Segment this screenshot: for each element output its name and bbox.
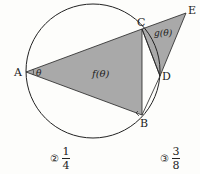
denominator: 4 — [63, 160, 70, 171]
point-label-d: D — [162, 70, 171, 83]
point-label-a: A — [13, 66, 23, 79]
region-g-triangle-cde — [142, 13, 186, 76]
point-label-b: B — [140, 117, 148, 130]
point-label-c: C — [137, 16, 145, 29]
angle-theta-label: θ — [36, 68, 42, 78]
segment-bd — [142, 76, 160, 115]
point-label-e: E — [188, 4, 196, 17]
fraction: 1 4 — [62, 146, 70, 171]
fraction: 3 8 — [172, 146, 180, 171]
numerator: 1 — [63, 146, 70, 157]
region-f-triangle-abc — [26, 29, 142, 115]
region-g-label: g(θ) — [154, 28, 173, 38]
choice-3: ③ 3 8 — [160, 146, 180, 171]
choice-marker: ③ — [160, 153, 169, 164]
region-f-label: f(θ) — [91, 68, 110, 79]
choice-marker: ② — [50, 153, 59, 164]
denominator: 8 — [173, 160, 180, 171]
choice-2: ② 1 4 — [50, 146, 70, 171]
numerator: 3 — [173, 146, 180, 157]
